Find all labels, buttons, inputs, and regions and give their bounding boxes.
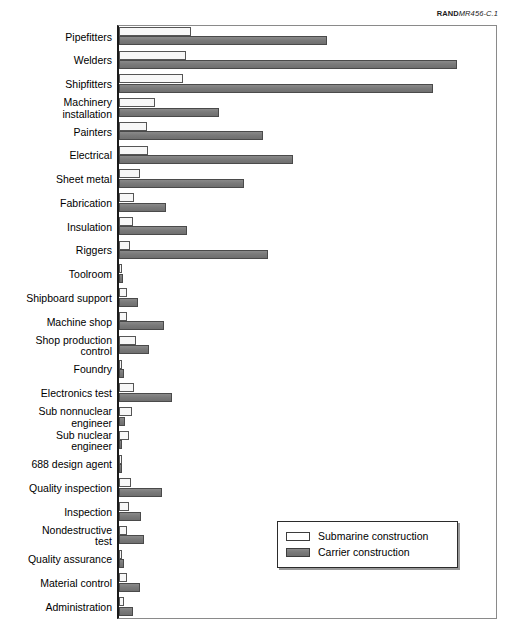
bar-submarine-construction [119, 146, 148, 155]
chart-row: Riggers [0, 239, 508, 263]
row-bars [119, 286, 497, 310]
bar-submarine-construction [119, 217, 133, 226]
bar-carrier-construction [119, 203, 166, 212]
bar-submarine-construction [119, 597, 124, 606]
row-bars [119, 476, 497, 500]
legend-item-carrier: Carrier construction [286, 544, 449, 560]
row-bars [119, 73, 497, 97]
row-bars [119, 310, 497, 334]
category-label: Material control [0, 578, 112, 590]
row-bars [119, 358, 497, 382]
row-bars [119, 25, 497, 49]
bar-carrier-construction [119, 84, 433, 93]
chart-row: Administration [0, 595, 508, 619]
bar-submarine-construction [119, 74, 183, 83]
bar-carrier-construction [119, 321, 164, 330]
bar-submarine-construction [119, 288, 127, 297]
row-bars [119, 595, 497, 619]
bar-submarine-construction [119, 51, 186, 60]
chart-row: Shipboard support [0, 286, 508, 310]
row-bars [119, 429, 497, 453]
bar-carrier-construction [119, 36, 327, 45]
bar-carrier-construction [119, 512, 141, 521]
bar-submarine-construction [119, 264, 122, 273]
chart-row: Sub nuclear engineer [0, 429, 508, 453]
bar-carrier-construction [119, 345, 149, 354]
chart-row: Toolroom [0, 263, 508, 287]
bar-carrier-construction [119, 417, 125, 426]
category-label: Electrical [0, 150, 112, 162]
category-label: Shipfitters [0, 79, 112, 91]
bar-submarine-construction [119, 122, 147, 131]
category-label: Shipboard support [0, 293, 112, 305]
chart-row: Electrical [0, 144, 508, 168]
chart-row: Painters [0, 120, 508, 144]
category-label: Toolroom [0, 269, 112, 281]
rand-source-label: RANDMR456-C.1 [437, 9, 498, 18]
row-bars [119, 191, 497, 215]
legend-swatch-submarine-icon [286, 532, 310, 541]
row-bars [119, 453, 497, 477]
bar-submarine-construction [119, 241, 130, 250]
bar-carrier-construction [119, 393, 172, 402]
bar-submarine-construction [119, 526, 127, 535]
bar-carrier-construction [119, 464, 122, 473]
bar-carrier-construction [119, 583, 140, 592]
bar-carrier-construction [119, 274, 123, 283]
row-bars [119, 96, 497, 120]
chart-row: Material control [0, 571, 508, 595]
bar-submarine-construction [119, 431, 129, 440]
bar-submarine-construction [119, 455, 122, 464]
row-bars [119, 49, 497, 73]
chart-row: Shipfitters [0, 73, 508, 97]
category-label: Administration [0, 602, 112, 614]
bar-carrier-construction [119, 298, 138, 307]
bar-carrier-construction [119, 179, 244, 188]
category-label: Machine shop [0, 317, 112, 329]
chart-row: Sub nonnuclear engineer [0, 405, 508, 429]
bar-submarine-construction [119, 312, 127, 321]
row-bars [119, 571, 497, 595]
chart-row: Pipefitters [0, 25, 508, 49]
bar-submarine-construction [119, 193, 134, 202]
bar-submarine-construction [119, 478, 131, 487]
row-bars [119, 239, 497, 263]
bar-carrier-construction [119, 108, 219, 117]
chart-row: Machinery installation [0, 96, 508, 120]
bar-carrier-construction [119, 60, 457, 69]
category-label: Nondestructive test [0, 525, 112, 548]
category-label: Insulation [0, 222, 112, 234]
bar-carrier-construction [119, 369, 124, 378]
bar-submarine-construction [119, 502, 129, 511]
bar-submarine-construction [119, 573, 127, 582]
row-bars [119, 144, 497, 168]
bar-carrier-construction [119, 131, 263, 140]
bar-carrier-construction [119, 488, 162, 497]
category-label: Machinery installation [0, 97, 112, 120]
bar-submarine-construction [119, 550, 122, 559]
bar-carrier-construction [119, 440, 122, 449]
bar-carrier-construction [119, 607, 133, 616]
bar-carrier-construction [119, 155, 293, 164]
chart-figure: RANDMR456-C.1 PipefittersWeldersShipfitt… [0, 0, 508, 643]
bar-submarine-construction [119, 336, 136, 345]
category-label: Foundry [0, 364, 112, 376]
category-label: Sheet metal [0, 174, 112, 186]
bar-submarine-construction [119, 27, 191, 36]
legend-label-carrier: Carrier construction [318, 546, 410, 558]
bar-carrier-construction [119, 559, 124, 568]
row-bars [119, 263, 497, 287]
bar-submarine-construction [119, 407, 132, 416]
category-label: Electronics test [0, 388, 112, 400]
bar-carrier-construction [119, 250, 268, 259]
bar-submarine-construction [119, 98, 155, 107]
chart-row: Electronics test [0, 381, 508, 405]
category-label: Sub nonnuclear engineer [0, 406, 112, 429]
bar-submarine-construction [119, 360, 122, 369]
category-label: Welders [0, 55, 112, 67]
row-bars [119, 334, 497, 358]
chart-row: Quality inspection [0, 476, 508, 500]
category-label: Painters [0, 127, 112, 139]
category-label: Quality assurance [0, 554, 112, 566]
chart-row: Fabrication [0, 191, 508, 215]
